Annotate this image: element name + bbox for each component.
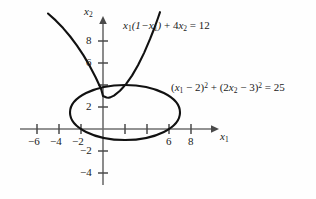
x-axis-title: x1	[220, 131, 229, 143]
y-tick-label-6: 6	[86, 57, 92, 68]
y-axis-arrow	[99, 16, 107, 24]
y-tick-label-neg4: −4	[80, 167, 92, 178]
y-axis-title: x2	[84, 6, 93, 18]
x-tick-label-8: 8	[188, 136, 194, 147]
y-tick-label-neg2: −2	[80, 145, 92, 156]
y-tick-label-8: 8	[86, 35, 92, 46]
x-tick-label-neg4: −4	[50, 136, 62, 147]
x-tick-label-6: 6	[166, 136, 172, 147]
figure-canvas: x2 x1 −6 −4 −2 6 8 8 6 2 −2 −4 x1(1 − x1…	[0, 0, 316, 199]
x-tick-label-neg6: −6	[28, 136, 40, 147]
ellipse-equation-label: (x1 − 2)2 + (2x2 − 3)2 = 25	[171, 82, 285, 94]
x-axis-arrow	[211, 125, 219, 133]
parabola-equation-label: x1(1 − x1) + 4x2 = 12	[123, 20, 210, 32]
y-tick-label-2: 2	[86, 101, 92, 112]
